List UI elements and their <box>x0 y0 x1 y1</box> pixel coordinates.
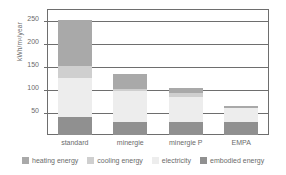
y-tick-mark <box>44 21 48 22</box>
legend-swatch-icon <box>22 157 29 164</box>
legend-swatch-icon <box>87 157 94 164</box>
legend-swatch-icon <box>200 157 207 164</box>
bar-segment-heating-energy <box>224 106 258 108</box>
bar-segment-embodied-energy <box>224 122 258 135</box>
bar-standard[interactable] <box>58 9 92 135</box>
bar-segment-electricity <box>58 78 92 117</box>
chart-legend: heating energycooling energyelectricitye… <box>22 157 268 164</box>
legend-label: cooling energy <box>97 157 143 164</box>
bar-segment-embodied-energy <box>169 122 203 135</box>
bar-minergie-p[interactable] <box>169 9 203 135</box>
bar-segment-embodied-energy <box>113 122 147 135</box>
legend-swatch-icon <box>152 157 159 164</box>
bar-segment-embodied-energy <box>58 117 92 135</box>
legend-item[interactable]: electricity <box>152 157 191 164</box>
bar-segment-electricity <box>224 108 258 122</box>
legend-label: electricity <box>162 157 191 164</box>
y-tick-mark <box>44 113 48 114</box>
legend-item[interactable]: heating energy <box>22 157 78 164</box>
legend-item[interactable]: embodied energy <box>200 157 264 164</box>
y-tick-label: 200 <box>9 38 39 45</box>
x-axis-label: EMPA <box>201 139 281 146</box>
y-tick-label: 250 <box>9 15 39 22</box>
bar-segment-electricity <box>113 91 147 122</box>
y-tick-label: 150 <box>9 61 39 68</box>
bar-empa[interactable] <box>224 9 258 135</box>
y-tick-mark <box>44 90 48 91</box>
bar-minergie[interactable] <box>113 9 147 135</box>
bar-segment-cooling-energy <box>58 66 92 77</box>
bar-segment-cooling-energy <box>113 89 147 91</box>
y-tick-label: 100 <box>9 84 39 91</box>
bar-segment-heating-energy <box>58 20 92 66</box>
bar-segment-cooling-energy <box>169 93 203 96</box>
legend-label: heating energy <box>32 157 78 164</box>
y-tick-mark <box>44 44 48 45</box>
stacked-bar-chart: kWh/m²/year 50100150200250 standardminer… <box>0 0 286 175</box>
y-tick-label: 50 <box>9 107 39 114</box>
legend-item[interactable]: cooling energy <box>87 157 143 164</box>
legend-label: embodied energy <box>210 157 264 164</box>
bar-segment-electricity <box>169 97 203 122</box>
bar-segment-heating-energy <box>113 74 147 89</box>
y-tick-mark <box>44 67 48 68</box>
bar-segment-heating-energy <box>169 88 203 93</box>
